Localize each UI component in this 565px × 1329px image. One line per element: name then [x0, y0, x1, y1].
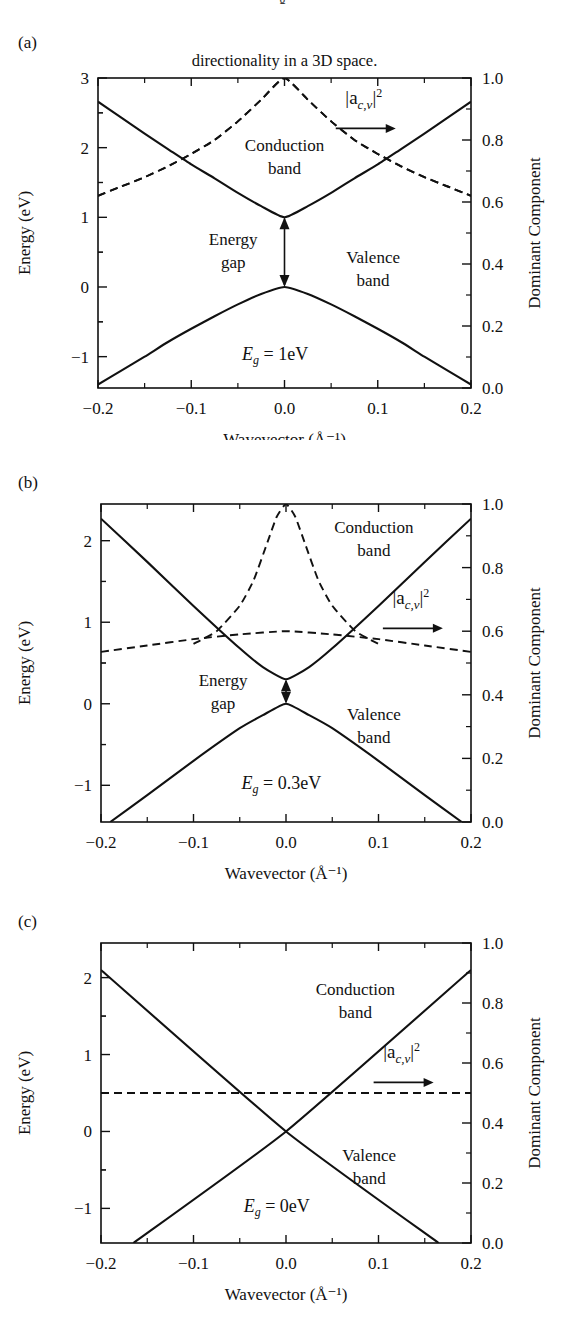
energy-gap-arrow-head-down — [281, 692, 291, 704]
y-tick-label: 1 — [81, 208, 90, 227]
x-tick-label: 0.2 — [460, 833, 481, 852]
energy-gap-label-line2: gap — [211, 694, 236, 713]
conduction-band-label-line2: band — [357, 541, 391, 560]
y2-tick-label: 1.0 — [482, 934, 503, 953]
y2-tick-label: 0.2 — [482, 1174, 503, 1193]
x-tick-label: −0.2 — [86, 1254, 117, 1273]
y2-axis-title: Dominant Component — [525, 157, 544, 309]
panel-letter: (a) — [18, 33, 37, 52]
y2-tick-label: 0.2 — [482, 749, 503, 768]
right-axis-pointer-arrow-head — [386, 124, 396, 133]
conduction-band-label-line1: Conduction — [334, 518, 414, 537]
y-tick-label: 0 — [84, 695, 93, 714]
x-tick-label: 0.0 — [275, 833, 296, 852]
y-axis-title: Energy (eV) — [15, 1051, 34, 1135]
figure-page: g (a)directionality in a 3D space.−0.2−0… — [0, 0, 565, 1329]
conduction-band-label-line1: Conduction — [316, 980, 396, 999]
x-tick-label: −0.2 — [86, 833, 117, 852]
valence-band-label-line2: band — [353, 1169, 387, 1188]
y2-tick-label: 0.4 — [482, 1114, 504, 1133]
x-tick-label: 0.2 — [460, 1254, 481, 1273]
x-tick-label: 0.0 — [275, 1254, 296, 1273]
panel-c: (c)−0.2−0.10.00.10.2210−11.00.80.60.40.2… — [0, 885, 565, 1329]
y-tick-label: 0 — [81, 278, 90, 297]
y2-tick-label: 0.0 — [482, 813, 503, 832]
dominant-component-legend-label: |ac,v|2 — [345, 86, 382, 112]
y2-tick-label: 0.4 — [482, 255, 504, 274]
x-tick-label: 0.1 — [368, 833, 389, 852]
y2-tick-label: 0.6 — [482, 622, 503, 641]
x-tick-label: 0.0 — [274, 399, 295, 418]
energy-gap-arrow-head-up — [281, 679, 291, 691]
conduction-band-label-line1: Conduction — [245, 136, 325, 155]
x-tick-label: −0.2 — [83, 399, 114, 418]
x-tick-label: −0.1 — [178, 833, 209, 852]
x-axis-title: Wavevector (Å⁻¹) — [223, 430, 346, 440]
x-axis-title: Wavevector (Å⁻¹) — [225, 864, 348, 883]
panel-c-plot: (c)−0.2−0.10.00.10.2210−11.00.80.60.40.2… — [0, 885, 565, 1329]
y-tick-label: 3 — [81, 69, 90, 88]
y2-axis-title: Dominant Component — [525, 587, 544, 739]
panel-b-plot: (b)−0.2−0.10.00.10.2210−11.00.80.60.40.2… — [0, 440, 565, 885]
dominant-component-legend-label: |ac,v|2 — [383, 1040, 420, 1066]
eg-annotation: Eg = 0.3eV — [241, 773, 322, 796]
y2-tick-label: 1.0 — [482, 69, 503, 88]
energy-gap-label-line1: Energy — [199, 671, 248, 690]
valence-band-label-line2: band — [357, 728, 391, 747]
y-tick-label: 2 — [81, 139, 90, 158]
y-axis-title: Energy (eV) — [15, 191, 34, 275]
y2-tick-label: 0.0 — [482, 379, 503, 398]
x-tick-label: −0.1 — [176, 399, 207, 418]
panel-a: (a)directionality in a 3D space.−0.2−0.1… — [0, 0, 565, 440]
caption-line: directionality in a 3D space. — [192, 51, 378, 70]
x-tick-label: 0.1 — [368, 1254, 389, 1273]
right-axis-pointer-arrow-head — [433, 624, 443, 633]
y-tick-label: 2 — [84, 532, 93, 551]
valence-band-label-line1: Valence — [346, 248, 400, 267]
x-tick-label: 0.2 — [460, 399, 481, 418]
valence-band-label-line1: Valence — [347, 705, 401, 724]
energy-gap-label-line2: gap — [221, 253, 246, 272]
y-tick-label: −1 — [74, 1199, 92, 1218]
right-axis-pointer-arrow-head — [424, 1078, 434, 1087]
series-solid — [110, 704, 462, 822]
eg-annotation: Eg = 1eV — [241, 344, 308, 367]
energy-gap-arrow-head-down — [280, 275, 290, 287]
panel-a-plot: (a)directionality in a 3D space.−0.2−0.1… — [0, 0, 565, 440]
x-axis-title: Wavevector (Å⁻¹) — [225, 1285, 348, 1304]
x-tick-label: −0.1 — [178, 1254, 209, 1273]
y2-tick-label: 0.8 — [482, 559, 503, 578]
panel-b: (b)−0.2−0.10.00.10.2210−11.00.80.60.40.2… — [0, 440, 565, 885]
y-tick-label: −1 — [74, 776, 92, 795]
conduction-band-label-line2: band — [339, 1003, 373, 1022]
panel-letter: (b) — [18, 473, 38, 492]
y-tick-label: 2 — [84, 969, 93, 988]
valence-band-label-line2: band — [357, 271, 391, 290]
y2-tick-label: 0.8 — [482, 994, 503, 1013]
x-tick-label: 0.1 — [367, 399, 388, 418]
eg-annotation: Eg = 0eV — [243, 1196, 310, 1219]
y2-tick-label: 1.0 — [482, 495, 503, 514]
energy-gap-label-line1: Energy — [209, 230, 258, 249]
series-solid — [98, 287, 471, 385]
series-dashed — [101, 631, 471, 652]
valence-band-label-line1: Valence — [342, 1146, 396, 1165]
conduction-band-label-line2: band — [268, 159, 302, 178]
y-axis-title: Energy (eV) — [15, 621, 34, 705]
y2-tick-label: 0.6 — [482, 193, 503, 212]
panel-letter: (c) — [18, 912, 37, 931]
y2-tick-label: 0.6 — [482, 1054, 503, 1073]
y2-tick-label: 0.8 — [482, 131, 503, 150]
y2-tick-label: 0.0 — [482, 1234, 503, 1253]
y-tick-label: 1 — [84, 613, 93, 632]
y2-tick-label: 0.4 — [482, 686, 504, 705]
y2-axis-title: Dominant Component — [525, 1017, 544, 1169]
y-tick-label: −1 — [71, 348, 89, 367]
dominant-component-legend-label: |ac,v|2 — [392, 586, 429, 612]
y-tick-label: 1 — [84, 1046, 93, 1065]
y-tick-label: 0 — [84, 1122, 93, 1141]
y2-tick-label: 0.2 — [482, 317, 503, 336]
energy-gap-arrow-head-up — [280, 217, 290, 229]
